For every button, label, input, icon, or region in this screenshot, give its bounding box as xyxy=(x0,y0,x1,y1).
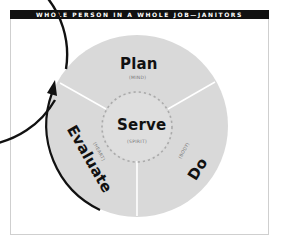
center-spirit-sublabel: (SPIRIT) xyxy=(127,139,147,144)
segment-plan-label: Plan xyxy=(120,55,158,73)
segment-plan-sublabel: (MIND) xyxy=(129,75,146,80)
arrow-head-icon xyxy=(47,80,57,96)
center-serve-label: Serve xyxy=(117,116,166,134)
